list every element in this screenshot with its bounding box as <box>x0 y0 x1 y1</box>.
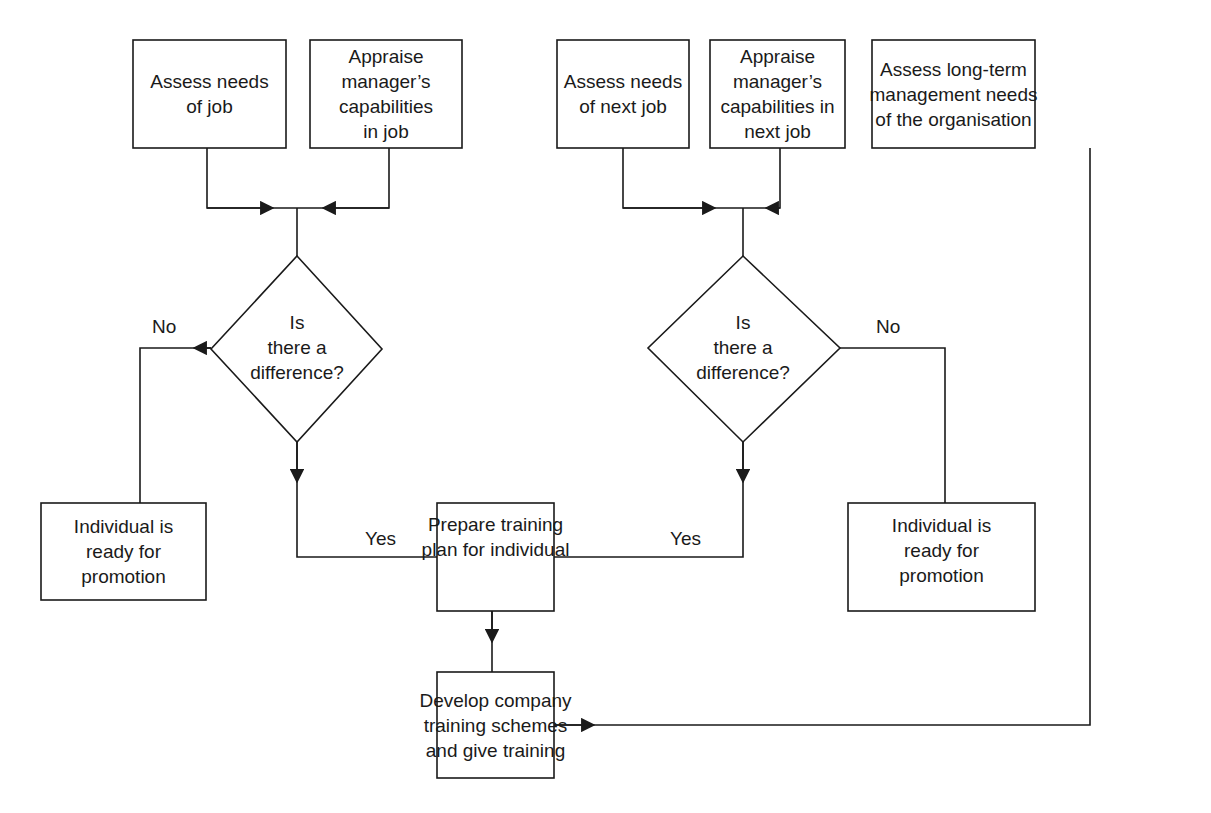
node-text: there a <box>267 335 326 360</box>
node-text: training schemes <box>424 713 568 738</box>
node-decision-right: Is there a difference? <box>673 300 813 395</box>
node-text: Assess needs <box>150 69 268 94</box>
connector <box>207 148 297 208</box>
node-assess-job: Assess needs of job <box>133 40 286 148</box>
node-text: difference? <box>696 360 790 385</box>
node-text: next job <box>744 119 811 144</box>
edge-label-left-yes: Yes <box>365 528 396 550</box>
node-ready-left: Individual is ready for promotion <box>41 503 206 600</box>
node-text: promotion <box>899 563 984 588</box>
node-text: ready for <box>86 539 161 564</box>
node-prepare-plan: Prepare training plan for individual <box>437 503 554 571</box>
node-text: Is <box>736 310 751 335</box>
node-text: in job <box>363 119 408 144</box>
edge-label-right-no: No <box>876 316 900 338</box>
node-text: Develop company <box>419 688 571 713</box>
node-text: plan for individual <box>422 537 570 562</box>
edge-label-right-yes: Yes <box>670 528 701 550</box>
node-text: manager’s <box>341 69 430 94</box>
node-text: of the organisation <box>875 107 1031 132</box>
node-assess-longterm: Assess long-term management needs of the… <box>872 40 1035 148</box>
node-text: Individual is <box>892 513 991 538</box>
node-text: and give training <box>426 738 565 763</box>
node-decision-left: Is there a difference? <box>227 300 367 395</box>
node-text: ready for <box>904 538 979 563</box>
node-ready-right: Individual is ready for promotion <box>848 503 1035 598</box>
node-text: Assess needs <box>564 69 682 94</box>
node-text: management needs <box>870 82 1038 107</box>
connector <box>297 148 389 208</box>
node-text: Appraise <box>349 44 424 69</box>
node-text: Individual is <box>74 514 173 539</box>
node-appraise-next: Appraise manager’s capabilities in next … <box>710 40 845 148</box>
node-text: Prepare training <box>428 512 563 537</box>
node-develop-training: Develop company training schemes and giv… <box>437 672 554 778</box>
node-text: difference? <box>250 360 344 385</box>
edge-label-left-no: No <box>152 316 176 338</box>
node-text: promotion <box>81 564 166 589</box>
node-text: capabilities <box>339 94 433 119</box>
node-text: capabilities in <box>720 94 834 119</box>
node-text: manager’s <box>733 69 822 94</box>
node-text: there a <box>713 335 772 360</box>
node-text: Is <box>290 310 305 335</box>
node-appraise-job: Appraise manager’s capabilities in job <box>310 40 462 148</box>
node-text: Assess long-term <box>880 57 1027 82</box>
node-text: of job <box>186 94 232 119</box>
node-text: Appraise <box>740 44 815 69</box>
node-assess-next: Assess needs of next job <box>557 40 689 148</box>
node-text: of next job <box>579 94 667 119</box>
